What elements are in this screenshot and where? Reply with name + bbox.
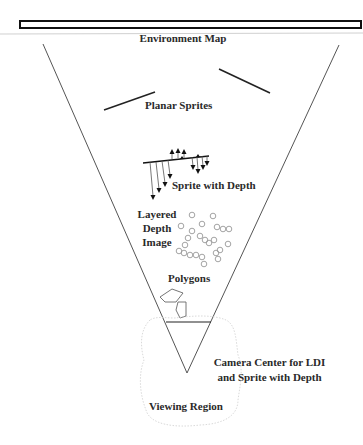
label-camera-line2: and Sprite with Depth xyxy=(207,371,332,384)
frustum-right-edge xyxy=(187,45,339,373)
layered-depth-image-samples xyxy=(176,212,232,267)
label-environment-map: Environment Map xyxy=(128,32,238,45)
label-ldi-line2: Depth xyxy=(133,222,181,235)
label-polygons: Polygons xyxy=(168,272,210,285)
polygons-glyph xyxy=(160,289,186,318)
sprite-with-depth-glyph xyxy=(143,148,210,200)
label-sprite-with-depth: Sprite with Depth xyxy=(172,179,256,192)
environment-map-bar xyxy=(20,21,361,28)
planar-sprite-right xyxy=(219,69,270,93)
label-viewing-region: Viewing Region xyxy=(149,400,223,413)
label-planar-sprites: Planar Sprites xyxy=(145,99,212,112)
label-ldi-line3: Image xyxy=(133,236,181,249)
label-ldi-line1: Layered xyxy=(133,208,181,221)
label-camera-line1: Camera Center for LDI xyxy=(207,356,332,369)
